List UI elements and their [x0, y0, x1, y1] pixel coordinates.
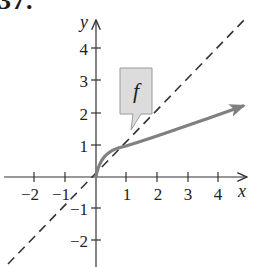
- y-tick-label: 3: [80, 72, 89, 91]
- x-axis-label: x: [237, 181, 246, 201]
- y-tick-label: 1: [80, 137, 89, 156]
- y-tick-label: 4: [80, 40, 89, 59]
- x-tick-label: −1: [52, 185, 70, 204]
- x-tick-label: 2: [154, 185, 163, 204]
- y-axis-label: y: [78, 12, 88, 32]
- y-tick-label: −2: [70, 232, 88, 251]
- x-tick-label: 4: [214, 185, 223, 204]
- y-tick-label: 2: [80, 105, 89, 124]
- x-tick-labels: −2 −1 1 2 3 4: [21, 185, 223, 204]
- curve-f: [96, 106, 243, 177]
- x-tick-label: 1: [123, 185, 132, 204]
- x-tick-label: 3: [184, 185, 193, 204]
- y-tick-label: −1: [70, 200, 88, 219]
- identity-dashed-line: [8, 18, 246, 264]
- x-tick-label: −2: [21, 185, 39, 204]
- y-tick-labels: 4 3 2 1 −1 −2: [70, 40, 89, 251]
- function-plot: −2 −1 1 2 3 4 x 4 3 2 1 −1 −2 y f: [0, 0, 260, 267]
